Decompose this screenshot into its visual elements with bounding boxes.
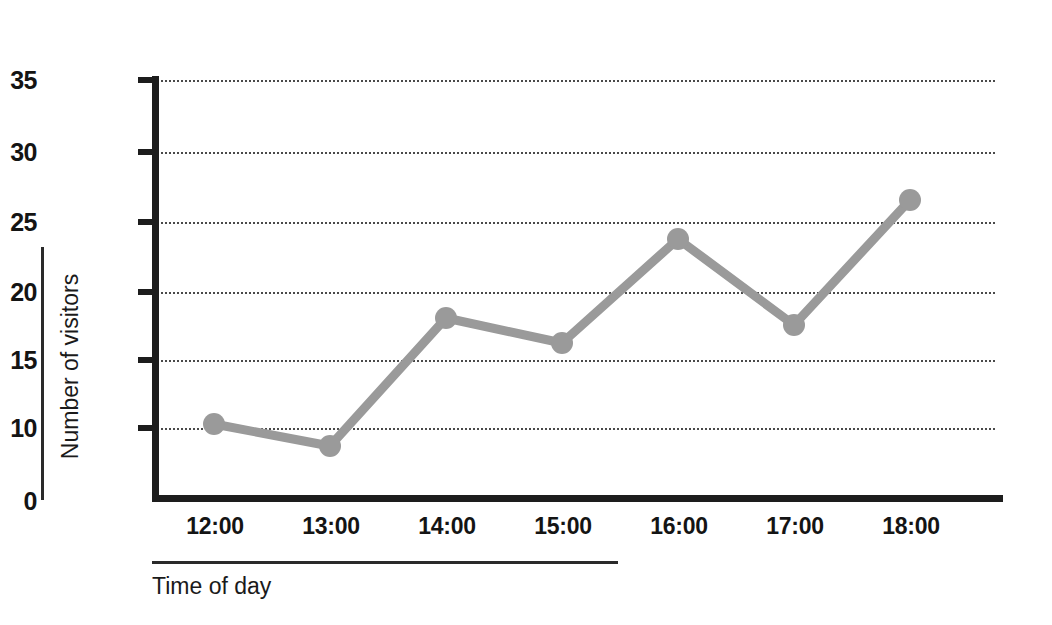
line-chart-figure: 35 30 25 20 15 10 0 12:00 13:00 14:00 15… (0, 0, 1052, 625)
plot-area (157, 78, 1003, 498)
x-tick-label-1800: 18:00 (851, 515, 971, 538)
y-tick-mark-35 (138, 77, 154, 83)
gridline-25 (157, 222, 995, 224)
y-axis-title: Number of visitors (57, 239, 84, 494)
y-tick-label-35: 35 (0, 68, 37, 93)
y-tick-mark-15 (138, 357, 154, 363)
y-tick-label-30: 30 (0, 140, 37, 165)
y-axis-title-wrap: Number of visitors (30, 245, 70, 500)
y-tick-mark-30 (138, 149, 154, 155)
x-axis-title-rule (152, 561, 618, 564)
x-tick-label-1600: 16:00 (619, 515, 739, 538)
gridline-35 (157, 80, 995, 82)
y-tick-mark-20 (138, 289, 154, 295)
gridline-10 (157, 428, 995, 430)
gridline-20 (157, 292, 995, 294)
y-tick-label-25: 25 (0, 210, 37, 235)
x-tick-label-1500: 15:00 (503, 515, 623, 538)
x-tick-label-1200: 12:00 (155, 515, 275, 538)
x-tick-label-1300: 13:00 (271, 515, 391, 538)
gridline-30 (157, 152, 995, 154)
x-tick-label-1400: 14:00 (387, 515, 507, 538)
x-axis-title: Time of day (152, 573, 271, 600)
x-axis-line (152, 495, 1003, 502)
y-tick-mark-25 (138, 219, 154, 225)
x-tick-label-1700: 17:00 (735, 515, 855, 538)
y-tick-mark-10 (138, 425, 154, 431)
gridline-15 (157, 360, 995, 362)
